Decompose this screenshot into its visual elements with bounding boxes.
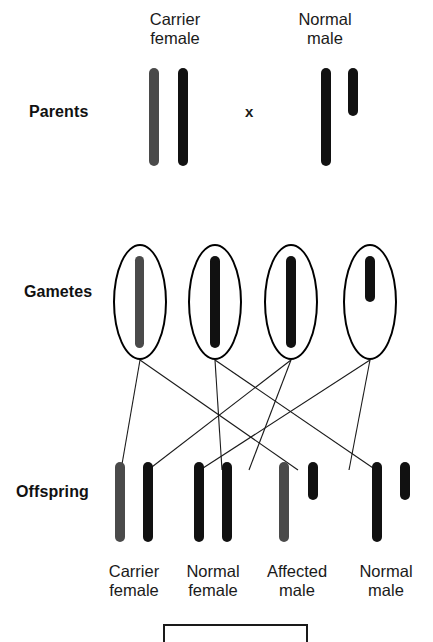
row-label-parents: Parents [29, 103, 88, 121]
parent-label-normal-male: Normal male [275, 10, 375, 48]
offspring-label-carrier-female: Carrier female [98, 562, 170, 600]
offspring-label-affected-male-line2: male [255, 581, 339, 600]
bottom-caption-frame [163, 624, 308, 642]
cross-symbol: x [245, 103, 253, 120]
parent-label-carrier-female-line2: female [125, 29, 225, 48]
offspring-label-normal-female-line1: Normal [177, 562, 249, 581]
offspring-normal-male-chromosome-x-normal [372, 462, 382, 542]
offspring-affected-male-chromosome-x-carrier [279, 462, 289, 542]
parent-normal-male-chromosome-y [348, 68, 358, 116]
offspring-label-normal-male-line2: male [350, 581, 422, 600]
offspring-normal-female-chromosome-x-normal-1 [194, 462, 204, 542]
offspring-normal-male-chromosome-y [400, 462, 410, 500]
gamete-chromosome-egg-x-carrier [135, 256, 144, 348]
row-label-gametes: Gametes [24, 283, 92, 301]
offspring-label-affected-male-line1: Affected [255, 562, 339, 581]
offspring-label-carrier-female-line2: female [98, 581, 170, 600]
parent-label-carrier-female: Carrier female [125, 10, 225, 48]
gamete-chromosome-sperm-x-normal [286, 256, 296, 348]
offspring-label-affected-male: Affected male [255, 562, 339, 600]
parent-carrier-female-chromosome-x-carrier [149, 68, 159, 166]
offspring-label-normal-male: Normal male [350, 562, 422, 600]
offspring-label-normal-male-line1: Normal [350, 562, 422, 581]
gamete-chromosome-sperm-y [365, 256, 375, 302]
offspring-label-normal-female-line2: female [177, 581, 249, 600]
parent-label-normal-male-line2: male [275, 29, 375, 48]
offspring-carrier-female-chromosome-x-carrier [115, 462, 125, 542]
offspring-normal-female-chromosome-x-normal-2 [222, 462, 232, 542]
parent-carrier-female-chromosome-x-normal [178, 68, 188, 166]
row-label-offspring: Offspring [16, 483, 89, 501]
offspring-carrier-female-chromosome-x-normal [143, 462, 153, 542]
gamete-chromosome-egg-x-normal [210, 256, 220, 348]
parent-label-carrier-female-line1: Carrier [125, 10, 225, 29]
offspring-affected-male-chromosome-y [308, 462, 318, 500]
offspring-label-carrier-female-line1: Carrier [98, 562, 170, 581]
parent-normal-male-chromosome-x-normal [321, 68, 331, 166]
parent-label-normal-male-line1: Normal [275, 10, 375, 29]
offspring-label-normal-female: Normal female [177, 562, 249, 600]
genetics-cross-diagram: Parents Carrier female Normal male x Gam… [0, 0, 433, 642]
